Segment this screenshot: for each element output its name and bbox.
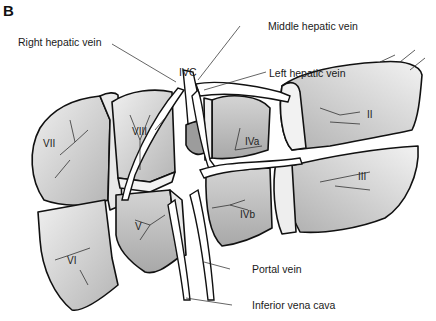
label-portal-vein: Portal vein <box>252 264 302 275</box>
label-inferior-vena-cava: Inferior vena cava <box>252 300 335 311</box>
lobes <box>32 62 422 311</box>
segment-label-viii: VIII <box>132 127 147 137</box>
label-ivc: IVC <box>179 67 197 78</box>
segment-vi-lobe <box>38 200 118 310</box>
liver-illustration <box>0 0 436 321</box>
label-middle-hepatic-vein: Middle hepatic vein <box>268 21 358 32</box>
segment-label-v: V <box>135 222 142 232</box>
segment-label-vii: VII <box>43 139 55 149</box>
segment-vii-lobe <box>32 96 110 205</box>
panel-letter: B <box>3 2 14 19</box>
segment-label-ivb: IVb <box>240 210 255 220</box>
segment-label-iii: III <box>358 172 366 182</box>
liver-segment-diagram: B Right hepatic vein IVC Middle hepatic … <box>0 0 436 321</box>
segment-v-lobe <box>116 190 178 273</box>
label-left-hepatic-vein: Left hepatic vein <box>269 68 345 79</box>
segment-label-ii: II <box>367 110 373 120</box>
segment-label-iva: IVa <box>245 137 259 147</box>
segment-iii-lobe <box>290 146 418 232</box>
segment-label-vi: VI <box>67 256 76 266</box>
label-right-hepatic-vein: Right hepatic vein <box>18 37 101 48</box>
